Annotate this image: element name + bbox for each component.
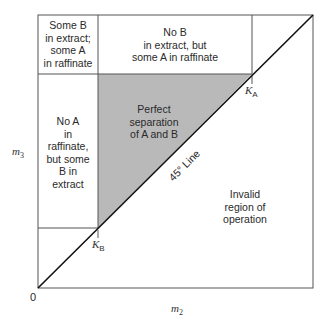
region-top-middle-label: No B in extract, but some A in raffinate — [98, 26, 252, 64]
label-line: separation — [112, 116, 196, 129]
label-line: in extract; — [38, 32, 98, 45]
label-line: Some B — [38, 19, 98, 32]
y-axis-subscript: 3 — [20, 151, 24, 160]
label-line: in extract, but — [98, 39, 252, 52]
label-line: in raffinate — [38, 57, 98, 70]
ka-marker-label: KA — [245, 84, 258, 99]
region-top-left-label: Some B in extract; some A in raffinate — [38, 19, 98, 69]
ka-subscript: A — [252, 90, 257, 99]
region-triangle-label: Perfect separation of A and B — [112, 103, 196, 141]
label-line: raffinate, — [38, 140, 98, 153]
label-line: of A and B — [112, 128, 196, 141]
region-left-label: No A in raffinate, but some B in extract — [38, 115, 98, 190]
label-line: extract — [38, 178, 98, 191]
x-axis-label: m2 — [171, 302, 183, 317]
x-axis-symbol: m — [171, 302, 179, 314]
label-line: Invalid — [205, 188, 285, 201]
label-line: No A — [38, 115, 98, 128]
kb-marker-label: KB — [92, 238, 105, 253]
x-axis-subscript: 2 — [179, 308, 183, 317]
label-line: operation — [205, 213, 285, 226]
label-line: some A — [38, 44, 98, 57]
label-line: B in — [38, 165, 98, 178]
label-line: No B — [98, 26, 252, 39]
label-line: Perfect — [112, 103, 196, 116]
label-line: region of — [205, 201, 285, 214]
label-line: some A in raffinate — [98, 51, 252, 64]
region-invalid-label: Invalid region of operation — [205, 188, 285, 226]
label-line: but some — [38, 153, 98, 166]
kb-subscript: B — [99, 244, 104, 253]
y-axis-label: m3 — [12, 145, 24, 160]
y-axis-symbol: m — [12, 145, 20, 157]
origin-label: 0 — [28, 291, 38, 304]
label-line: in — [38, 128, 98, 141]
